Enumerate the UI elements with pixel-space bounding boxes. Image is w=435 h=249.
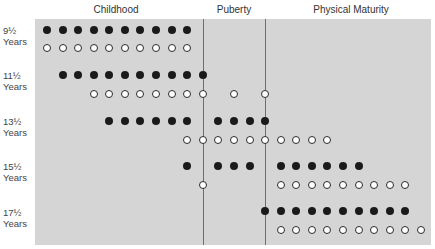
filled-dot — [43, 26, 51, 34]
open-dot — [152, 44, 160, 52]
open-dot — [292, 226, 300, 234]
open-dot — [401, 181, 409, 189]
filled-dot — [230, 117, 238, 125]
open-dot — [386, 226, 394, 234]
filled-dot — [152, 117, 160, 125]
open-dot — [43, 44, 51, 52]
filled-dot — [214, 117, 222, 125]
filled-dot — [105, 71, 113, 79]
open-dot — [168, 90, 176, 98]
filled-dot — [168, 71, 176, 79]
divider-childhood-puberty — [203, 19, 204, 245]
open-dot — [90, 90, 98, 98]
open-dot — [277, 136, 285, 144]
open-dot — [323, 136, 331, 144]
filled-dot — [136, 71, 144, 79]
row-label-9-5: 9½ Years — [3, 25, 27, 47]
open-dot — [230, 90, 238, 98]
filled-dot — [136, 26, 144, 34]
filled-dot — [339, 162, 347, 170]
filled-dot — [59, 26, 67, 34]
open-dot — [292, 181, 300, 189]
filled-dot — [74, 71, 82, 79]
row-unit: Years — [3, 36, 27, 47]
filled-dot — [121, 117, 129, 125]
filled-dot — [261, 207, 269, 215]
filled-dot — [246, 162, 254, 170]
filled-dot — [370, 207, 378, 215]
open-dot — [121, 90, 129, 98]
filled-dot — [183, 71, 191, 79]
filled-dot — [323, 207, 331, 215]
filled-dot — [59, 71, 67, 79]
filled-dot — [183, 26, 191, 34]
open-dot — [152, 90, 160, 98]
open-dot — [370, 181, 378, 189]
open-dot — [183, 44, 191, 52]
open-dot — [339, 226, 347, 234]
filled-dot — [74, 26, 82, 34]
filled-dot — [292, 162, 300, 170]
filled-dot — [183, 117, 191, 125]
row-age: 13½ — [3, 116, 27, 127]
open-dot — [90, 44, 98, 52]
open-dot — [199, 181, 207, 189]
open-dot — [183, 136, 191, 144]
open-dot — [386, 181, 394, 189]
open-dot — [199, 136, 207, 144]
open-dot — [74, 44, 82, 52]
row-label-17-5: 17½ Years — [3, 207, 27, 229]
filled-dot — [230, 162, 238, 170]
filled-dot — [246, 117, 254, 125]
open-dot — [199, 90, 207, 98]
filled-dot — [308, 162, 316, 170]
filled-dot — [292, 207, 300, 215]
filled-dot — [261, 117, 269, 125]
row-age: 15½ — [3, 161, 27, 172]
open-dot — [339, 181, 347, 189]
filled-dot — [355, 162, 363, 170]
open-dot — [308, 136, 316, 144]
filled-dot — [90, 26, 98, 34]
filled-dot — [152, 26, 160, 34]
filled-dot — [105, 117, 113, 125]
stage-label-childhood: Childhood — [93, 4, 138, 15]
filled-dot — [339, 207, 347, 215]
row-unit: Years — [3, 172, 27, 183]
filled-dot — [168, 117, 176, 125]
row-age: 11½ — [3, 70, 27, 81]
stage-label-physical-maturity: Physical Maturity — [313, 4, 389, 15]
filled-dot — [277, 207, 285, 215]
filled-dot — [136, 117, 144, 125]
row-age: 17½ — [3, 207, 27, 218]
open-dot — [417, 226, 425, 234]
open-dot — [370, 226, 378, 234]
open-dot — [355, 226, 363, 234]
filled-dot — [168, 26, 176, 34]
filled-dot — [355, 207, 363, 215]
row-label-13-5: 13½ Years — [3, 116, 27, 138]
filled-dot — [183, 162, 191, 170]
row-label-11-5: 11½ Years — [3, 70, 27, 92]
open-dot — [121, 44, 129, 52]
open-dot — [136, 44, 144, 52]
row-unit: Years — [3, 127, 27, 138]
row-unit: Years — [3, 218, 27, 229]
filled-dot — [199, 71, 207, 79]
open-dot — [105, 44, 113, 52]
filled-dot — [277, 162, 285, 170]
open-dot — [230, 136, 238, 144]
open-dot — [183, 90, 191, 98]
open-dot — [105, 90, 113, 98]
filled-dot — [121, 71, 129, 79]
filled-dot — [105, 26, 113, 34]
open-dot — [292, 136, 300, 144]
open-dot — [277, 226, 285, 234]
row-age: 9½ — [3, 25, 27, 36]
open-dot — [214, 136, 222, 144]
filled-dot — [386, 207, 394, 215]
filled-dot — [214, 162, 222, 170]
open-dot — [261, 90, 269, 98]
stage-label-puberty: Puberty — [217, 4, 251, 15]
open-dot — [246, 136, 254, 144]
